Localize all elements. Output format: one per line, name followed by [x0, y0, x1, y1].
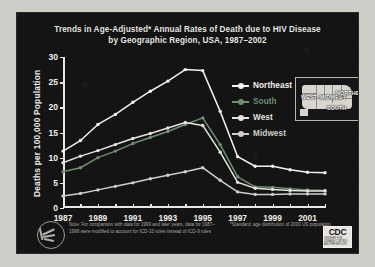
- series-point: [288, 189, 291, 192]
- y-tick-label: 15: [48, 128, 58, 138]
- cdc-logo: CDC CENTERS FOR DISEASE CONTROL AND PREV…: [323, 226, 352, 248]
- series-point: [114, 143, 117, 146]
- cdc-logo-text: CDC: [329, 228, 347, 237]
- y-tick-label: 10: [48, 153, 58, 163]
- legend-item-midwest[interactable]: Midwest: [232, 127, 312, 140]
- series-point: [166, 130, 169, 133]
- series-point: [219, 110, 222, 113]
- series-point: [114, 113, 117, 116]
- legend-marker-icon: [232, 129, 249, 138]
- series-point: [114, 185, 117, 188]
- series-point: [219, 143, 222, 146]
- series-point: [149, 136, 152, 139]
- series-point: [271, 193, 274, 196]
- footnote-left: Note: For comparison with data for 1999 …: [69, 222, 219, 235]
- legend-label: Northeast: [253, 81, 292, 90]
- map-label-south: SOUTH: [327, 105, 346, 111]
- y-tick: [60, 208, 64, 209]
- series-point: [288, 192, 291, 195]
- series-point: [184, 121, 187, 124]
- y-tick-label: 20: [48, 102, 58, 112]
- region-map-inset: WEST MIDWEST NORTHEAST SOUTH: [295, 77, 358, 121]
- series-point: [236, 190, 239, 193]
- series-point: [306, 189, 309, 192]
- series-point: [184, 170, 187, 173]
- series-point: [61, 149, 64, 152]
- series-point: [253, 193, 256, 196]
- series-point: [79, 192, 82, 195]
- legend-label: Midwest: [253, 129, 286, 138]
- series-point: [61, 170, 64, 173]
- series-point: [96, 156, 99, 159]
- series-point: [201, 124, 204, 127]
- y-tick-label: 30: [48, 52, 58, 62]
- cdc-logo-subtext: CENTERS FOR DISEASE CONTROL AND PREVENTI…: [324, 237, 351, 246]
- series-point: [149, 90, 152, 93]
- series-point: [61, 194, 64, 197]
- series-point: [114, 149, 117, 152]
- series-line-midwest: [63, 168, 325, 196]
- series-point: [149, 132, 152, 135]
- series-point: [253, 165, 256, 168]
- series-point: [323, 192, 326, 195]
- y-axis-label: Deaths per 100,000 Population: [31, 58, 43, 208]
- series-point: [219, 150, 222, 153]
- chart-title-line-2: by Geographic Region, USA, 1987–2002: [17, 35, 358, 46]
- series-point: [96, 149, 99, 152]
- series-point: [131, 137, 134, 140]
- series-point: [79, 166, 82, 169]
- series-point: [271, 165, 274, 168]
- series-point: [131, 142, 134, 145]
- y-tick-label: 25: [48, 77, 58, 87]
- series-point: [271, 188, 274, 191]
- series-point: [236, 175, 239, 178]
- series-point: [323, 171, 326, 174]
- map-alaska-hawaii-inset: [300, 109, 308, 116]
- series-point: [166, 79, 169, 82]
- series-point: [288, 168, 291, 171]
- series-point: [166, 174, 169, 177]
- series-point: [61, 161, 64, 164]
- series-point: [96, 188, 99, 191]
- series-point: [149, 177, 152, 180]
- series-point: [166, 126, 169, 129]
- legend-marker-icon: [232, 81, 249, 90]
- series-point: [306, 171, 309, 174]
- y-tick-label: 5: [53, 178, 58, 188]
- legend-label: South: [253, 97, 277, 106]
- y-tick-label: 0: [53, 203, 58, 213]
- legend-label: West: [253, 113, 273, 122]
- series-point: [236, 181, 239, 184]
- series-point: [96, 123, 99, 126]
- series-point: [306, 192, 309, 195]
- series-point: [79, 154, 82, 157]
- series-point: [201, 69, 204, 72]
- series-point: [184, 68, 187, 71]
- series-point: [201, 166, 204, 169]
- x-tick: [325, 204, 326, 208]
- map-label-northeast: NORTHEAST: [336, 90, 358, 96]
- series-point: [323, 189, 326, 192]
- series-point: [253, 187, 256, 190]
- series-point: [79, 139, 82, 142]
- legend-marker-icon: [232, 113, 249, 122]
- series-point: [131, 101, 134, 104]
- map-label-west: WEST: [301, 94, 317, 100]
- chart-title-line-1: Trends in Age-Adjusted* Annual Rates of …: [17, 24, 358, 35]
- series-point: [131, 181, 134, 184]
- series-point: [236, 155, 239, 158]
- legend-marker-icon: [232, 97, 249, 106]
- chart-title: Trends in Age-Adjusted* Annual Rates of …: [17, 24, 358, 46]
- series-point: [201, 116, 204, 119]
- slide-canvas: Trends in Age-Adjusted* Annual Rates of …: [17, 13, 358, 253]
- hhs-logo-icon: [37, 221, 65, 249]
- series-point: [219, 179, 222, 182]
